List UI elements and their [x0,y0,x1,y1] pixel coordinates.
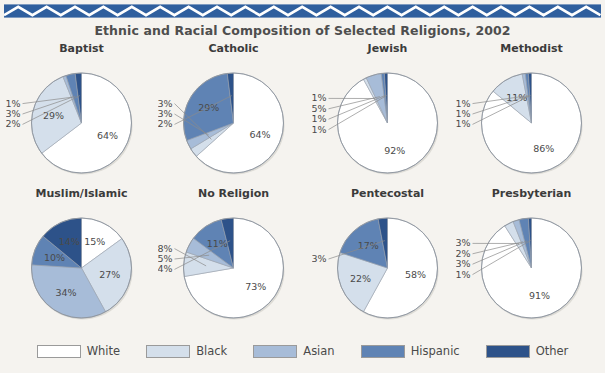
legend-item-asian[interactable]: Asian [253,344,334,358]
pie-chart-grid: Baptist64%29%1%3%2%Catholic64%29%3%3%2%J… [0,42,605,332]
legend-swatch-other [486,345,530,358]
slice-value-label: 22% [350,273,371,284]
slice-value-label: 1% [456,269,471,280]
chart-page: Ethnic and Racial Composition of Selecte… [0,0,605,373]
slice-value-label: 1% [456,98,471,109]
pie-chart-presbyterian: Presbyterian91%3%2%3%1% [456,187,605,332]
legend-label: Hispanic [411,344,460,358]
slice-value-label: 15% [84,236,105,247]
slice-value-label: 1% [456,108,471,119]
page-title: Ethnic and Racial Composition of Selecte… [0,23,605,38]
legend-label: Black [196,344,227,358]
pie-graphic: 91%3%2%3%1% [456,201,605,331]
pie-chart-title: Jewish [312,42,463,55]
slice-value-label: 1% [6,98,21,109]
pie-graphic: 92%1%5%1%1% [312,56,463,186]
slice-value-label: 86% [533,143,554,154]
pie-chart-title: Muslim/Islamic [6,187,157,200]
pie-chart-methodist: Methodist86%11%1%1%1% [456,42,605,187]
zigzag-pattern-icon [4,3,601,19]
legend-swatch-white [37,345,81,358]
legend-item-white[interactable]: White [37,344,120,358]
pie-graphic: 58%22%17%3% [312,201,463,331]
slice-value-label: 2% [456,248,471,259]
pie-graphic: 64%29%1%3%2% [6,56,157,186]
slice-value-label: 29% [43,110,64,121]
slice-value-label: 64% [249,129,270,140]
pie-graphic: 73%11%8%5%4% [158,201,309,331]
slice-value-label: 92% [384,145,405,156]
slice-value-label: 3% [456,258,471,269]
legend-item-black[interactable]: Black [146,344,227,358]
chart-legend: WhiteBlackAsianHispanicOther [0,338,605,364]
pie-graphic: 15%27%34%10%14% [6,201,157,331]
slice-value-label: 8% [158,243,173,254]
slice-value-label: 3% [158,98,173,109]
slice-value-label: 3% [312,253,327,264]
legend-label: Other [536,344,569,358]
pie-chart-muslim-islamic: Muslim/Islamic15%27%34%10%14% [6,187,157,332]
legend-label: Asian [303,344,334,358]
slice-value-label: 3% [6,108,21,119]
slice-value-label: 73% [245,281,266,292]
slice-value-label: 5% [158,253,173,264]
slice-value-label: 11% [506,92,527,103]
pie-chart-title: No Religion [158,187,309,200]
slice-value-label: 4% [158,263,173,274]
slice-value-label: 58% [405,269,426,280]
pie-graphic: 64%29%3%3%2% [158,56,309,186]
pie-chart-catholic: Catholic64%29%3%3%2% [158,42,309,187]
pie-chart-title: Baptist [6,42,157,55]
legend-swatch-hispanic [361,345,405,358]
slice-value-label: 27% [99,269,120,280]
slice-value-label: 3% [158,108,173,119]
slice-value-label: 34% [55,287,76,298]
pie-chart-title: Methodist [456,42,605,55]
slice-value-label: 3% [456,237,471,248]
legend-label: White [87,344,120,358]
slice-value-label: 1% [456,118,471,129]
pie-chart-pentecostal: Pentecostal58%22%17%3% [312,187,463,332]
slice-value-label: 1% [312,124,327,135]
slice-value-label: 1% [312,113,327,124]
pie-chart-no-religion: No Religion73%11%8%5%4% [158,187,309,332]
slice-value-label: 5% [312,103,327,114]
legend-item-other[interactable]: Other [486,344,569,358]
pie-chart-title: Presbyterian [456,187,605,200]
legend-swatch-asian [253,345,297,358]
slice-value-label: 10% [44,252,65,263]
legend-item-hispanic[interactable]: Hispanic [361,344,460,358]
slice-value-label: 2% [158,118,173,129]
pie-chart-title: Pentecostal [312,187,463,200]
slice-value-label: 2% [6,118,21,129]
legend-swatch-black [146,345,190,358]
pie-chart-baptist: Baptist64%29%1%3%2% [6,42,157,187]
pie-graphic: 86%11%1%1%1% [456,56,605,186]
pie-chart-title: Catholic [158,42,309,55]
slice-value-label: 14% [59,236,80,247]
slice-value-label: 64% [97,130,118,141]
zigzag-banner [4,3,601,19]
slice-value-label: 91% [529,290,550,301]
pie-chart-jewish: Jewish92%1%5%1%1% [312,42,463,187]
slice-value-label: 1% [312,92,327,103]
